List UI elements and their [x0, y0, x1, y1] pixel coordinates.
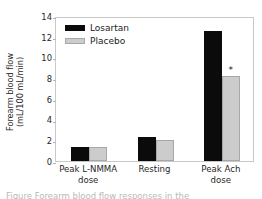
significance-asterisk: * [222, 66, 240, 75]
y-tick-mark-6 [53, 101, 56, 102]
x-axis-tick-labels: Peak L-NMMAdoseRestingPeak Achdose [55, 164, 254, 188]
legend-label-losartan: Losartan [90, 23, 129, 33]
y-tick-mark-14 [53, 18, 56, 19]
x-axis-tick-label-1: Peak L-NMMAdose [55, 164, 121, 185]
y-axis-tick-4: 4 [34, 116, 52, 124]
bar-losartan-group-2 [138, 137, 156, 161]
y-tick-mark-10 [53, 59, 56, 60]
x-tick-line1: Peak Ach [201, 164, 240, 174]
y-axis-tick-14: 14 [34, 13, 52, 21]
y-axis-tick-12: 12 [34, 34, 52, 42]
y-axis-tick-6: 6 [34, 96, 52, 104]
y-axis-title-line2: (mL/100 mL/min) [15, 53, 25, 131]
y-axis-tick-8: 8 [34, 75, 52, 83]
y-tick-mark-12 [53, 39, 56, 40]
x-tick-line1: Peak L-NMMA [59, 164, 117, 174]
y-axis-title: Forearm blood flow (mL/100 mL/min) [1, 22, 29, 162]
x-tick-line1: Resting [138, 164, 170, 174]
bar-placebo-group-2 [156, 140, 174, 161]
x-tick-line2: dose [188, 175, 254, 186]
legend-label-placebo: Placebo [90, 36, 125, 46]
y-axis-tick-0: 0 [34, 158, 52, 166]
bar-losartan-group-1 [71, 147, 89, 162]
legend-swatch-placebo [65, 38, 85, 44]
plot-area: * Losartan Placebo [55, 17, 254, 162]
y-tick-mark-2 [53, 142, 56, 143]
legend-swatch-losartan [65, 25, 85, 31]
x-axis-tick-label-3: Peak Achdose [188, 164, 254, 185]
figure-bar-chart: Forearm blood flow (mL/100 mL/min) 14121… [0, 0, 262, 199]
figure-caption-sliver: Figure Forearm blood flow responses in t… [6, 191, 256, 199]
x-axis-tick-label-2: Resting [121, 164, 187, 175]
y-tick-mark-4 [53, 122, 56, 123]
y-axis-tick-labels: 14121086420 [30, 0, 52, 199]
y-tick-mark-8 [53, 80, 56, 81]
legend-item-placebo: Placebo [65, 35, 149, 47]
y-axis-tick-10: 10 [34, 54, 52, 62]
legend-item-losartan: Losartan [65, 22, 149, 34]
bar-losartan-group-3 [204, 31, 222, 161]
y-axis-title-line1: Forearm blood flow [5, 53, 15, 131]
bar-placebo-group-1 [89, 147, 107, 162]
chart-legend: Losartan Placebo [65, 22, 149, 48]
y-axis-tick-2: 2 [34, 137, 52, 145]
x-tick-line2: dose [55, 175, 121, 186]
bar-placebo-group-3 [222, 76, 240, 161]
